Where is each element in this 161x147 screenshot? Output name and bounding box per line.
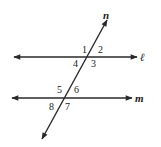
angle-6: 6 xyxy=(74,84,79,95)
label-l: ℓ xyxy=(140,51,145,63)
label-m: m xyxy=(135,92,144,104)
angle-3: 3 xyxy=(91,58,96,69)
angle-5: 5 xyxy=(57,84,62,95)
label-n: n xyxy=(103,9,109,21)
angle-4: 4 xyxy=(73,58,78,69)
transversal-n xyxy=(42,20,107,139)
parallel-lines-diagram: n ℓ m 1 2 4 3 5 6 8 7 xyxy=(0,0,161,147)
angle-8: 8 xyxy=(49,101,54,112)
diagram-svg: n ℓ m 1 2 4 3 5 6 8 7 xyxy=(0,0,161,147)
angle-1: 1 xyxy=(82,44,87,55)
angle-2: 2 xyxy=(98,44,103,55)
angle-7: 7 xyxy=(65,101,70,112)
